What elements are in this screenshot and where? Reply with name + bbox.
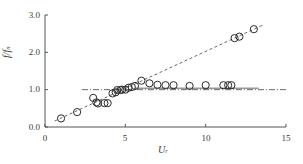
axis-ticks xyxy=(45,15,286,127)
data-point xyxy=(250,26,257,33)
x-tick-label-5: 5 xyxy=(123,134,128,143)
y-axis-label-num: f xyxy=(1,55,12,58)
reference-lines xyxy=(55,25,286,121)
data-point xyxy=(146,80,153,87)
x-axis-label-sub: r xyxy=(165,147,168,154)
x-tick-label-15: 15 xyxy=(282,134,291,143)
x-tick-label-10: 10 xyxy=(202,134,211,143)
data-point xyxy=(74,108,81,115)
y-tick-label-1: 1.0 xyxy=(18,85,40,94)
axes-lines xyxy=(45,15,286,127)
data-point xyxy=(162,82,169,89)
data-point xyxy=(154,81,161,88)
data-point xyxy=(202,82,209,89)
strouhal-line xyxy=(55,25,264,121)
y-tick-label-2: 2.0 xyxy=(18,48,40,57)
y-axis-label-den: f xyxy=(1,50,12,53)
y-axis-label-sub: n xyxy=(4,46,11,49)
x-tick-label-0: 0 xyxy=(43,134,48,143)
data-point xyxy=(170,82,177,89)
x-axis-label: Ur xyxy=(158,145,168,155)
y-axis-label-slash: / xyxy=(1,52,12,55)
y-tick-label-0: 0.0 xyxy=(18,123,40,132)
y-tick-label-3: 3.0 xyxy=(18,11,40,20)
y-axis-label: f/fn xyxy=(2,46,12,58)
chart-figure: 3.0 2.0 1.0 0.0 0 5 10 15 f/fn Ur xyxy=(0,0,303,164)
data-points xyxy=(57,26,257,122)
